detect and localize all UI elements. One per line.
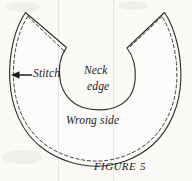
figure-caption: FIGURE5 — [94, 161, 146, 173]
label-neck-edge-line1: Neck — [84, 64, 108, 76]
label-stitch: Stitch — [33, 67, 60, 79]
figure-illustration: Stitch Neck edge Wrong side FIGURE5 — [0, 0, 192, 181]
label-wrong-side: Wrong side — [66, 114, 119, 126]
label-neck-edge-line2: edge — [87, 80, 109, 92]
figure-caption-number: 5 — [140, 160, 146, 172]
figure-caption-word: FIGURE — [94, 160, 136, 172]
